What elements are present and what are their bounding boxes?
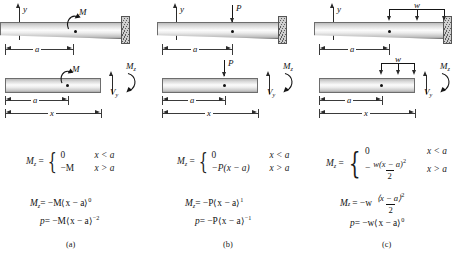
fbd-dimension-x-arrow-left-c [320, 110, 325, 114]
fbd-dimension-a-tick-right-b [225, 96, 226, 105]
fixed-support-wall-b [278, 16, 287, 44]
equation-load-exponent-c: 0 [401, 216, 404, 223]
piecewise-case2-value-a: −M [61, 163, 95, 173]
dimension-a-arrow-right-c [383, 46, 388, 50]
equation-moment-rhs-b: = −P⟨x − a⟩ [195, 198, 240, 208]
internal-moment-label-b: Mz [283, 62, 293, 72]
figure-column-a: y x M a [0, 0, 158, 261]
equation-moment-denominator-c: 2 [386, 204, 394, 215]
dimension-a-label-c: a [348, 45, 356, 54]
fbd-dimension-a-arrow-right-c [376, 97, 381, 101]
internal-moment-arrow-a [124, 70, 142, 94]
equation-moment-a: Mz= −M⟨x − a⟩0 [30, 196, 91, 209]
piecewise-case1-cond-b: x < a [270, 150, 290, 160]
axis-y-label-c: y [337, 5, 341, 14]
fbd-dimension-x-label-b: x [205, 109, 213, 118]
axis-y-arrowhead-b [173, 3, 177, 8]
piecewise-case2-num-exponent-c: 2 [403, 157, 406, 164]
internal-shear-label-a: Vy [110, 88, 118, 98]
internal-shear-label-b: Vy [267, 88, 275, 98]
caption-c: (c) [382, 240, 391, 249]
piecewise-brace-a: { [48, 152, 57, 172]
piecewise-brace-b: { [199, 152, 208, 172]
fbd-dimension-a-tick-right-a [68, 96, 69, 105]
piecewise-case2-cond-b: x > a [270, 163, 290, 173]
axis-y-arrowhead-a [16, 3, 20, 8]
dimension-a-arrow-left-c [320, 46, 325, 50]
fbd-dimension-a-arrow-left-a [6, 97, 11, 101]
piecewise-case2-value-c: −w(x − a)22 [365, 158, 427, 180]
dimension-a-arrow-left-b [163, 46, 168, 50]
internal-moment-subscript-b: z [291, 65, 293, 72]
fbd-beam-body-b [162, 78, 258, 93]
internal-moment-arrow-c [438, 70, 456, 94]
equation-load-c: p= −w⟨x − a⟩0 [350, 216, 404, 228]
equation-moment-c: Mz= −w⟨x − a⟩22 [340, 192, 407, 214]
internal-moment-arrow-b [281, 70, 299, 94]
distributed-load-arrowhead-2-c [415, 16, 419, 21]
internal-moment-label-a: Mz [126, 62, 136, 72]
dimension-a-arrow-right-a [67, 46, 72, 50]
internal-shear-subscript-a: y [116, 91, 119, 98]
piecewise-case2-denominator-c: 2 [386, 170, 394, 181]
equation-moment-num-text-c: ⟨x − a⟩ [377, 193, 401, 203]
fbd-dimension-a-arrow-left-c [320, 97, 325, 101]
dimension-a-arrow-left-a [6, 46, 11, 50]
piecewise-case1-cond-a: x < a [95, 150, 115, 160]
internal-moment-symbol-b: M [283, 61, 291, 71]
piecewise-case1-value-c: 0 [365, 146, 427, 156]
piecewise-case1-value-a: 0 [61, 150, 95, 160]
internal-moment-symbol-c: M [440, 61, 448, 71]
internal-moment-subscript-a: z [134, 65, 136, 72]
fbd-dimension-x-arrow-right-a [95, 110, 100, 114]
piecewise-case2-fraction-c: w(x − a)22 [371, 158, 408, 180]
equation-moment-exponent-b: 1 [240, 196, 243, 203]
fbd-dimension-x-arrow-left-b [163, 110, 168, 114]
equation-moment-rhs-a: = −M⟨x − a⟩ [40, 198, 88, 208]
fbd-dimension-x-label-c: x [362, 109, 370, 118]
internal-shear-arrowhead-c [423, 71, 427, 76]
internal-shear-arrowhead-b [266, 71, 270, 76]
applied-moment-label-a: M [79, 8, 87, 17]
internal-shear-arrowhead-a [109, 71, 113, 76]
equation-load-rhs-a: = −M⟨x − a⟩ [45, 216, 93, 226]
internal-shear-label-c: Vy [424, 88, 432, 98]
fbd-dimension-a-arrow-left-b [163, 97, 168, 101]
fbd-distributed-load-label-c: w [395, 55, 401, 64]
fbd-dimension-a-label-c: a [345, 96, 353, 105]
piecewise-lhs-symbol-c: M [326, 158, 334, 168]
beam-point-marker-c [388, 30, 391, 33]
fbd-dimension-x-arrow-right-c [409, 110, 414, 114]
dimension-a-label-b: a [191, 45, 199, 54]
fbd-dimension-a-label-b: a [188, 96, 196, 105]
axis-y-label-a: y [23, 5, 27, 14]
piecewise-lhs-subscript-a: z [34, 160, 36, 167]
equation-moment-fraction-c: ⟨x − a⟩22 [375, 192, 406, 214]
equation-load-rhs-b: = −P⟨x − a⟩ [200, 216, 245, 226]
fbd-beam-body-a [5, 78, 101, 93]
equation-moment-symbol-c: M [340, 198, 348, 208]
fbd-dimension-x-tick-right-b [258, 109, 259, 118]
fbd-beam-body-c [319, 78, 415, 93]
fbd-point-load-label-b: P [228, 59, 234, 68]
equation-moment-symbol-a: M [30, 198, 38, 208]
equation-moment-num-exponent-c: 2 [401, 191, 404, 198]
equation-piecewise-b: Mz = { 0 x < a −P(x − a) x > a [177, 150, 289, 173]
point-load-label-b: P [236, 4, 242, 13]
fbd-distributed-load-arrowhead-2-c [396, 70, 400, 75]
point-load-arrowhead-b [230, 18, 234, 23]
fbd-dimension-x-label-a: x [48, 109, 56, 118]
piecewise-case2-cond-c: x > a [427, 164, 447, 174]
equation-load-exponent-a: −2 [93, 214, 100, 221]
fixed-support-wall-a [121, 16, 130, 44]
internal-moment-label-c: Mz [440, 62, 450, 72]
piecewise-lhs-subscript-c: z [334, 161, 336, 168]
fbd-dimension-a-tick-right-c [382, 96, 383, 105]
axis-y-label-b: y [180, 5, 184, 14]
piecewise-case2-num-text-c: w(x − a) [373, 159, 403, 169]
dimension-a-tick-right-c [389, 44, 390, 55]
dimension-a-tick-right-b [232, 44, 233, 55]
piecewise-brace-c: { [349, 150, 361, 176]
equation-moment-symbol-b: M [185, 198, 193, 208]
internal-shear-subscript-b: y [273, 91, 276, 98]
